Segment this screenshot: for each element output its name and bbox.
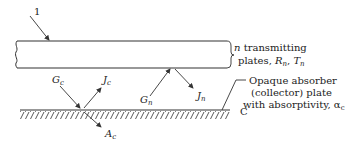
- plates-label-line1: n transmitting: [234, 42, 307, 53]
- absorber-label-line3: with absorptivity, αc: [243, 99, 345, 110]
- absorber-label-line2: (collector) plate: [251, 87, 332, 98]
- Jc-label: Jc: [103, 74, 111, 85]
- transmitting-plates: [16, 41, 227, 68]
- Gn-arrow: [150, 69, 170, 96]
- Jn-label: Jn: [197, 90, 206, 101]
- Jc-arrow: [84, 88, 101, 108]
- collector-symbol: C: [240, 106, 248, 117]
- Gc-label: Gc: [52, 74, 64, 85]
- callout-number: 1: [34, 6, 40, 17]
- callout-arrow: [30, 16, 49, 40]
- Ac-label: Ac: [105, 128, 116, 139]
- absorber-plate: [20, 110, 230, 119]
- Gn-label: Gn: [140, 94, 153, 105]
- plates-label-line2: plates, Rn, Tn: [238, 55, 305, 66]
- Gc-arrow: [60, 86, 80, 108]
- absorber-label-line1: Opaque absorber: [249, 75, 337, 86]
- Jn-arrow: [175, 69, 193, 88]
- plates-brace: [227, 41, 234, 68]
